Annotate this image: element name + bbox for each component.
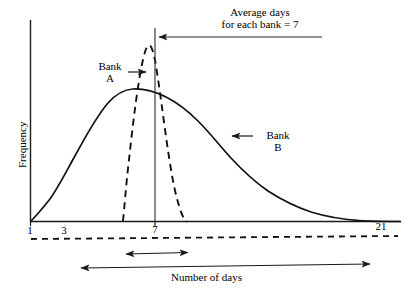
bank-b-label-line-1: Bank — [258, 129, 298, 141]
spread-arrow-bank-b — [81, 264, 370, 268]
frequency-distribution-chart: Frequency Average days for each bank = 7… — [0, 0, 413, 297]
x-tick-label-3: 3 — [57, 224, 71, 236]
bank-a-label-line-2: A — [90, 72, 130, 84]
average-annotation-line-2: for each bank = 7 — [190, 18, 330, 30]
bank-b-curve — [31, 89, 400, 222]
average-annotation-text: Average days for each bank = 7 — [190, 6, 330, 31]
x-tick-label-7: 7 — [148, 223, 162, 235]
bank-a-label-line-1: Bank — [90, 60, 130, 72]
average-annotation-line-1: Average days — [190, 6, 330, 18]
y-axis-label: Frequency — [16, 122, 28, 168]
baseline-dashed-line — [31, 236, 398, 239]
chart-canvas — [0, 0, 413, 297]
bank-b-label: Bank B — [258, 129, 298, 154]
x-axis-label: Number of days — [0, 271, 413, 283]
x-tick-label-1: 1 — [23, 224, 37, 236]
bank-b-label-line-2: B — [258, 141, 298, 153]
bank-a-label: Bank A — [90, 60, 130, 85]
x-tick-label-21: 21 — [372, 220, 390, 232]
spread-arrow-bank-a — [126, 253, 188, 255]
